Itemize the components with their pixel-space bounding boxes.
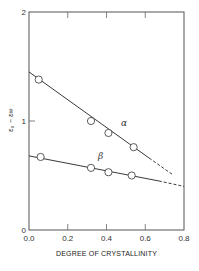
data-point-marker	[130, 144, 137, 151]
series-label: β	[97, 151, 103, 161]
fit-line-extrapolated	[159, 181, 184, 186]
fit-line-extrapolated	[149, 158, 172, 174]
series-label: α	[121, 118, 127, 128]
y-axis-ticks: 012	[22, 8, 35, 235]
y-tick-label: 1	[22, 117, 27, 126]
data-point-marker	[35, 76, 42, 83]
x-tick-label: 0.8	[178, 234, 190, 243]
x-axis-title: DEGREE OF CRYSTALLINITY	[56, 250, 157, 257]
plot-border	[29, 12, 184, 230]
x-tick-label: 0.4	[101, 234, 113, 243]
y-tick-label: 0	[22, 226, 27, 235]
x-tick-label: 0.2	[62, 234, 74, 243]
x-tick-label: 0.0	[23, 234, 35, 243]
plot-frame	[29, 12, 184, 230]
data-point-marker	[87, 117, 94, 124]
series-layer: αβ	[29, 72, 184, 186]
data-point-marker	[105, 129, 112, 136]
data-point-marker	[87, 164, 94, 171]
dielectric-increment-chart: 0.00.20.40.60.8 012 αβ DEGREE OF CRYSTAL…	[0, 0, 199, 271]
series-beta: β	[29, 151, 184, 186]
data-point-marker	[105, 169, 112, 176]
y-axis-title: ε₀ − ε∞	[7, 108, 14, 132]
data-point-marker	[128, 172, 135, 179]
y-tick-label: 2	[22, 8, 27, 17]
x-tick-label: 0.6	[140, 234, 152, 243]
data-point-marker	[37, 153, 44, 160]
